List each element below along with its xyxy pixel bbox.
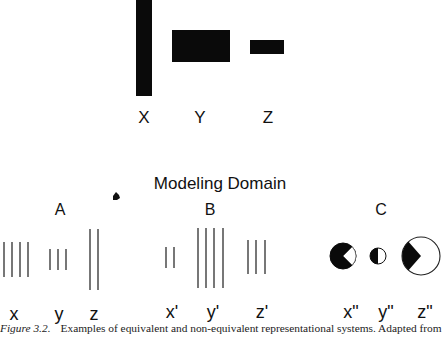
system-b-item-x-lines — [166, 247, 174, 268]
half-circle-fill — [370, 248, 378, 264]
bar-x — [136, 0, 152, 96]
system-c-item-z-label: z" — [417, 302, 432, 322]
world-labels: X Y Z — [138, 108, 273, 127]
system-c-label: C — [375, 201, 387, 218]
system-a-item-x-lines — [4, 242, 28, 277]
bar-z — [250, 40, 284, 54]
system-a-label: A — [55, 201, 66, 218]
modeling-domain-title: Modeling Domain — [154, 174, 286, 193]
system-a-item-z-label: z — [90, 304, 99, 324]
system-b-item-y-lines — [198, 228, 223, 288]
system-c-item-y-label: y" — [378, 302, 393, 322]
world-label-x: X — [138, 108, 149, 127]
system-b-item-x-label: x' — [166, 302, 178, 322]
system-a-item-z-lines — [90, 229, 98, 290]
system-b-label: B — [205, 201, 216, 218]
figure-number: Figure 3.2. — [0, 322, 51, 334]
world-bars — [136, 0, 284, 96]
system-b: B x' y' z' — [166, 201, 268, 322]
system-c-item-y-glyph — [370, 248, 386, 264]
world-label-y: Y — [194, 108, 205, 127]
bar-y — [172, 30, 230, 62]
system-a-item-x-label: x — [10, 304, 19, 324]
world-label-z: Z — [263, 108, 273, 127]
system-a-item-y-label: y — [55, 304, 64, 324]
ink-blot — [113, 192, 120, 200]
system-c-item-x-label: x" — [343, 302, 358, 322]
system-c: C x" y" z" — [330, 201, 440, 322]
system-b-item-z-lines — [248, 240, 265, 274]
system-b-item-y-label: y' — [207, 302, 219, 322]
system-c-item-x-glyph — [330, 243, 356, 269]
system-b-item-z-label: z' — [256, 302, 268, 322]
system-a: A x y z — [4, 201, 99, 324]
figure-caption: Figure 3.2.Examples of equivalent and no… — [0, 322, 441, 334]
system-c-item-z-glyph — [402, 237, 440, 275]
system-a-item-y-lines — [50, 249, 66, 270]
caption-text: Examples of equivalent and non-equivalen… — [61, 322, 442, 334]
